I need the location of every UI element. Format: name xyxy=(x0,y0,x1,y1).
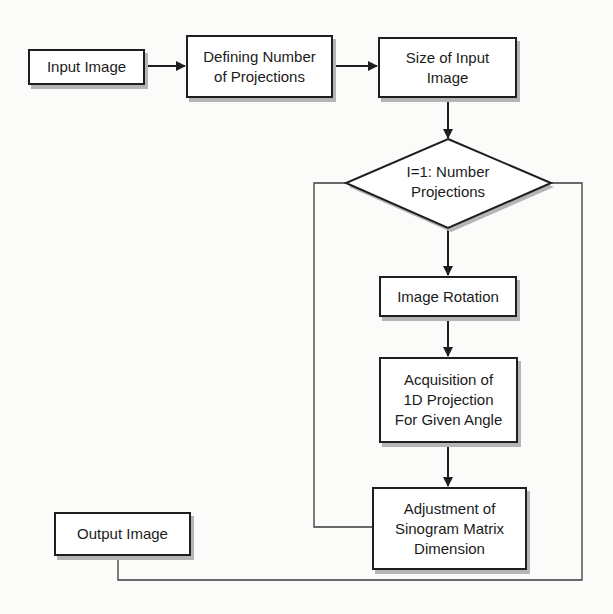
input-image-node: Input Image xyxy=(28,49,145,85)
size-input-image-label: Size of Input Image xyxy=(406,48,489,88)
defining-projections-node: Defining Number of Projections xyxy=(186,35,333,98)
size-input-image-node: Size of Input Image xyxy=(378,37,517,98)
adjustment-node: Adjustment of Sinogram Matrix Dimension xyxy=(372,487,527,570)
adjustment-label: Adjustment of Sinogram Matrix Dimension xyxy=(395,499,504,559)
defining-projections-label: Defining Number of Projections xyxy=(203,47,316,87)
output-image-label: Output Image xyxy=(77,524,168,544)
acquisition-node: Acquisition of 1D Projection For Given A… xyxy=(379,357,518,443)
image-rotation-label: Image Rotation xyxy=(397,287,499,307)
edge-loop-back xyxy=(314,183,372,527)
acquisition-label: Acquisition of 1D Projection For Given A… xyxy=(395,370,503,430)
input-image-label: Input Image xyxy=(47,57,126,77)
loop-decision-label: I=1: Number Projections xyxy=(378,162,518,202)
image-rotation-node: Image Rotation xyxy=(379,276,517,317)
output-image-node: Output Image xyxy=(54,512,191,556)
